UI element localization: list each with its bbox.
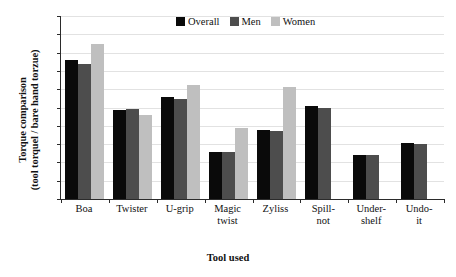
x-tick-mark: [444, 199, 445, 203]
bar-group: [348, 16, 396, 199]
y-axis-title-line-1: Torque comparison: [17, 77, 29, 163]
bar-group: [205, 16, 253, 199]
x-axis-tick-labels: BoaTwisterU-gripMagictwistZylissSpill-no…: [60, 203, 443, 227]
bar-chart: Torque comparison (tool torquel / bare h…: [0, 0, 456, 277]
bar-men-twister: [126, 109, 139, 199]
bar-men-magic-twist: [222, 152, 235, 199]
x-tick-label: Undo-it: [395, 203, 443, 227]
bar-men-u-grip: [174, 99, 187, 199]
bar-women-twister: [139, 115, 152, 199]
legend-label: Women: [283, 16, 315, 27]
legend-item-women[interactable]: Women: [271, 16, 315, 27]
legend-swatch-icon: [271, 17, 280, 26]
x-tick-label: Spill-not: [299, 203, 347, 227]
bar-group: [253, 16, 301, 199]
bar-group: [61, 16, 109, 199]
bar-men-boa: [78, 64, 91, 199]
bar-women-zyliss: [283, 87, 296, 199]
x-tick-label: Magictwist: [204, 203, 252, 227]
y-axis-title: Torque comparison (tool torquel / bare h…: [12, 15, 46, 225]
bar-women-magic-twist: [235, 128, 248, 199]
bar-group: [300, 16, 348, 199]
x-tick-label: Zyliss: [252, 203, 300, 227]
bar-overall-zyliss: [257, 130, 270, 199]
legend: OverallMenWomen: [176, 16, 315, 27]
bar-men-zyliss: [270, 131, 283, 199]
bar-overall-twister: [113, 110, 126, 199]
bar-group: [157, 16, 205, 199]
legend-swatch-icon: [230, 17, 239, 26]
bar-women-boa: [91, 44, 104, 199]
bar-men-undo-it: [414, 144, 427, 199]
x-tick-label: Twister: [108, 203, 156, 227]
bar-group: [396, 16, 444, 199]
bar-overall-u-grip: [161, 97, 174, 199]
plot-area: 00.20.40.60.811.21.41.61.82: [60, 16, 444, 200]
legend-item-overall[interactable]: Overall: [176, 16, 220, 27]
bar-men-under-shelf: [366, 155, 379, 199]
x-tick-label: Under-shelf: [347, 203, 395, 227]
legend-swatch-icon: [176, 17, 185, 26]
bar-overall-magic-twist: [209, 152, 222, 199]
bar-men-spill-not: [318, 108, 331, 200]
bar-women-u-grip: [187, 85, 200, 199]
bar-overall-spill-not: [305, 106, 318, 199]
x-tick-label: U-grip: [156, 203, 204, 227]
legend-label: Men: [242, 16, 261, 27]
bar-overall-boa: [65, 60, 78, 199]
legend-label: Overall: [188, 16, 220, 27]
y-axis-title-line-2: (tool torquel / bare hand torzue): [29, 50, 41, 191]
legend-item-men[interactable]: Men: [230, 16, 261, 27]
bar-group: [109, 16, 157, 199]
bar-overall-undo-it: [401, 143, 414, 199]
x-axis-title: Tool used: [0, 252, 456, 263]
x-tick-label: Boa: [60, 203, 108, 227]
bar-overall-under-shelf: [353, 155, 366, 199]
bar-groups: [61, 16, 444, 199]
